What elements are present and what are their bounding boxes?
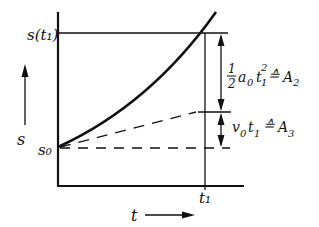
- s0-label: s₀: [38, 141, 52, 159]
- area2-formula: 1 2 a 0 t 1 2 ≙ A 2: [227, 62, 299, 91]
- svg-text:A: A: [281, 69, 293, 85]
- svg-text:1: 1: [254, 128, 260, 139]
- tangent-dashed-line: [60, 112, 196, 147]
- svg-text:0: 0: [247, 77, 254, 88]
- svg-text:2: 2: [292, 77, 299, 88]
- area3-formula: v 0 t 1 ≙ A 3: [232, 117, 294, 139]
- distance-time-diagram: s(t₁) s s₀ t₁ t 1 2 a 0 t 1 2 ≙ A 2 v 0 …: [0, 0, 319, 227]
- svg-text:1: 1: [228, 62, 236, 76]
- svg-text:A: A: [276, 119, 288, 135]
- svg-text:v: v: [232, 119, 240, 135]
- s-axis-arrowhead-icon: [22, 64, 29, 77]
- arrowhead-down-a2: [218, 99, 225, 111]
- t1-label: t₁: [199, 189, 211, 207]
- s-t1-label: s(t₁): [27, 26, 59, 44]
- svg-text:a: a: [238, 69, 246, 85]
- svg-text:2: 2: [260, 62, 267, 73]
- arrowhead-up-a3: [218, 113, 225, 125]
- svg-text:0: 0: [240, 128, 247, 139]
- t-axis-label: t: [131, 206, 138, 225]
- svg-text:1: 1: [261, 77, 267, 88]
- svg-text:≙: ≙: [263, 117, 275, 133]
- s-axis-label: s: [17, 130, 25, 149]
- arrowhead-down-a3: [218, 135, 225, 147]
- arrowhead-up-a2: [218, 34, 225, 46]
- svg-text:3: 3: [288, 128, 294, 139]
- t-axis-arrowhead-icon: [182, 212, 195, 219]
- svg-text:≙: ≙: [268, 67, 280, 83]
- svg-text:2: 2: [227, 77, 236, 91]
